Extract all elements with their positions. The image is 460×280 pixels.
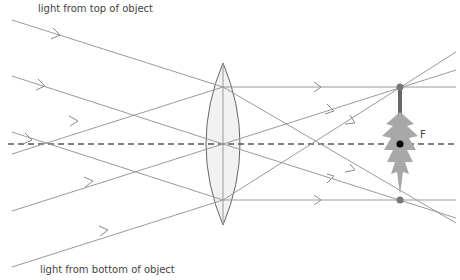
rays-from-bottom xyxy=(12,87,223,267)
refracted-rays xyxy=(223,52,456,223)
image-point-bottom xyxy=(397,197,404,204)
focal-point-dot xyxy=(397,141,404,148)
tree-trunk xyxy=(398,90,402,115)
rays-from-top xyxy=(12,20,223,200)
image-point-top xyxy=(397,84,404,91)
lens-ray-diagram xyxy=(0,0,460,280)
